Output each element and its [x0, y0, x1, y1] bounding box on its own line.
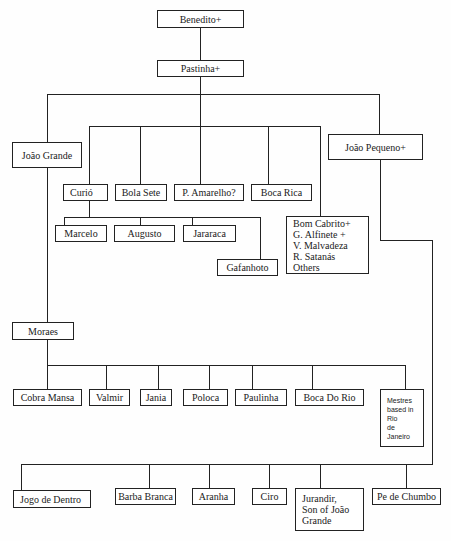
connector	[89, 201, 90, 217]
connector	[47, 94, 380, 95]
node-p-amarelho: P. Amarelho?	[174, 184, 244, 201]
mestres-line: based in	[387, 405, 413, 414]
node-mestres-rio: Mestres based in Rio de Janeiro	[380, 389, 424, 447]
connector	[269, 464, 270, 488]
mestres-line: Rio	[387, 414, 398, 423]
connector	[47, 167, 48, 323]
connector	[64, 217, 261, 218]
connector	[209, 365, 210, 389]
connector	[260, 217, 261, 259]
connector	[312, 365, 313, 389]
connector	[380, 240, 432, 241]
connector	[140, 217, 141, 225]
connector	[47, 365, 48, 389]
connector	[405, 365, 406, 389]
node-aranha: Aranha	[192, 488, 235, 505]
connector	[47, 94, 48, 142]
connector	[200, 126, 201, 184]
connector	[252, 365, 253, 389]
node-jurandir: Jurandir, Son of João Grande	[295, 488, 364, 531]
connector	[268, 126, 269, 184]
mestres-line: Mestres	[387, 396, 412, 405]
node-ciro: Ciro	[252, 488, 287, 505]
others-line: G. Alfinete +	[293, 229, 346, 240]
connector	[380, 159, 381, 240]
connector	[47, 340, 48, 365]
node-jogo-de-dentro: Jogo de Dentro	[13, 490, 91, 508]
node-bola-sete: Bola Sete	[115, 184, 167, 201]
connector	[64, 217, 65, 225]
connector	[47, 365, 406, 366]
connector	[21, 464, 433, 465]
lineage-diagram: Benedito+ Pastinha+ João Grande João Peq…	[0, 0, 451, 541]
node-barba-branca: Barba Branca	[115, 488, 176, 505]
node-jania: Jania	[140, 389, 172, 406]
node-poloca: Poloca	[183, 389, 228, 406]
connector	[379, 94, 380, 134]
others-line: Bom Cabrito+	[293, 218, 351, 229]
jurandir-line: Grande	[302, 515, 331, 526]
connector	[21, 464, 22, 490]
node-jararaca: Jararaca	[183, 225, 236, 242]
node-valmir: Valmir	[89, 389, 130, 406]
connector	[200, 94, 201, 126]
connector	[209, 464, 210, 488]
mestres-line: de	[387, 423, 395, 432]
node-benedito: Benedito+	[157, 10, 244, 28]
connector	[200, 76, 201, 94]
node-joao-pequeno: João Pequeno+	[328, 134, 423, 160]
connector	[140, 126, 141, 184]
connector	[106, 365, 107, 389]
node-joao-grande: João Grande	[12, 142, 82, 168]
others-line: V. Malvadeza	[293, 240, 348, 251]
connector	[89, 126, 90, 184]
node-boca-rica: Boca Rica	[251, 184, 312, 201]
node-pe-de-chumbo: Pe de Chumbo	[372, 488, 441, 505]
node-marcelo: Marcelo	[55, 225, 107, 242]
node-gafanhoto: Gafanhoto	[217, 259, 278, 276]
connector	[192, 217, 193, 225]
others-line: Others	[293, 262, 320, 273]
node-moraes: Moraes	[12, 322, 74, 340]
jurandir-line: Jurandir,	[302, 493, 337, 504]
connector	[200, 28, 201, 60]
connector	[406, 464, 407, 488]
mestres-line: Janeiro	[387, 432, 410, 441]
connector	[320, 126, 321, 216]
node-cobra-mansa: Cobra Mansa	[13, 389, 82, 406]
connector	[432, 240, 433, 464]
node-curio: Curió	[63, 184, 108, 201]
connector	[149, 464, 150, 488]
node-augusto: Augusto	[114, 225, 175, 242]
node-pastinha: Pastinha+	[157, 60, 244, 77]
connector	[158, 365, 159, 389]
node-boca-do-rio: Boca Do Rio	[295, 389, 364, 406]
node-others-group: Bom Cabrito+ G. Alfinete + V. Malvadeza …	[286, 216, 369, 274]
node-paulinha: Paulinha	[235, 389, 287, 406]
jurandir-line: Son of João	[302, 504, 349, 515]
connector	[320, 464, 321, 488]
connector	[89, 126, 321, 127]
others-line: R. Satanás	[293, 251, 335, 262]
